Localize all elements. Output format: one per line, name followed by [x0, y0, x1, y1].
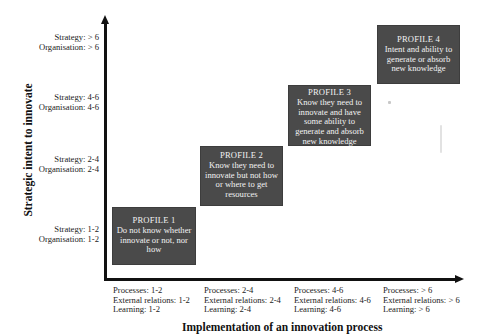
y-level-label-1: Strategy: 1-2 Organisation: 1-2	[39, 225, 99, 244]
y-level-label-2: Strategy: 2-4 Organisation: 2-4	[39, 155, 99, 174]
x-level-label-2: Processes: 2-4 External relations: 2-4 L…	[204, 286, 281, 315]
profile-4-box: PROFILE 4 Intent and ability to generate…	[377, 25, 460, 84]
profile-desc-line: new knowledge	[377, 64, 460, 74]
x-axis-line	[104, 278, 456, 281]
learning-label: Learning: 2-4	[204, 305, 281, 315]
y-axis-title: Strategic intent to innovate	[22, 83, 34, 216]
learning-label: Learning: 4-6	[294, 305, 371, 315]
y-level-label-4: Strategy: > 6 Organisation: > 6	[39, 33, 99, 52]
learning-label: Learning: > 6	[383, 305, 460, 315]
profile-2-box: PROFILE 2 Know they need to innovate but…	[200, 146, 283, 206]
y-level-label-3: Strategy: 4-6 Organisation: 4-6	[39, 93, 99, 112]
profile-1-box: PROFILE 1 Do not know whether innovate o…	[112, 207, 196, 265]
profile-desc-line: new knowledge	[288, 137, 371, 147]
organisation-label: Organisation: 2-4	[39, 165, 99, 175]
y-axis-line	[104, 22, 107, 281]
learning-label: Learning: 1-2	[113, 305, 190, 315]
x-level-label-1: Processes: 1-2 External relations: 1-2 L…	[113, 286, 190, 315]
profile-desc-line: resources	[200, 190, 283, 200]
x-level-label-4: Processes: > 6 External relations: > 6 L…	[383, 286, 460, 315]
organisation-label: Organisation: 4-6	[39, 103, 99, 113]
x-level-label-3: Processes: 4-6 External relations: 4-6 L…	[294, 286, 371, 315]
scan-artifact	[440, 125, 442, 153]
organisation-label: Organisation: > 6	[39, 43, 99, 53]
scan-artifact	[388, 101, 391, 104]
x-axis-title: Implementation of an innovation process	[182, 321, 382, 333]
profile-3-box: PROFILE 3 Know they need to innovate and…	[288, 85, 371, 146]
x-axis-arrowhead-icon	[455, 275, 464, 283]
organisation-label: Organisation: 1-2	[39, 235, 99, 245]
profile-desc-line: how	[112, 245, 196, 255]
